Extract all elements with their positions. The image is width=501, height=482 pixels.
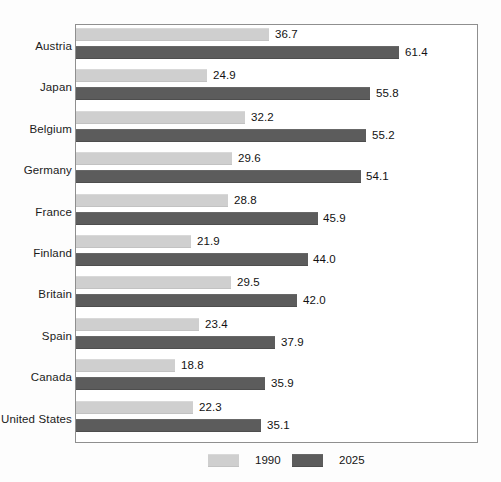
legend-item-1990: 1990 xyxy=(208,452,281,468)
bar-2025 xyxy=(76,294,297,307)
chart-row-japan: Japan 24.9 55.8 xyxy=(0,66,501,107)
bar-1990 xyxy=(76,318,199,331)
bar-1990 xyxy=(76,401,193,414)
bar-value-1990: 21.9 xyxy=(197,235,220,248)
bar-2025 xyxy=(76,377,265,390)
category-label: Belgium xyxy=(0,123,72,135)
chart-row-belgium: Belgium 32.2 55.2 xyxy=(0,108,501,149)
chart-row-austria: Austria 36.7 61.4 xyxy=(0,25,501,66)
bar-value-1990: 22.3 xyxy=(199,401,222,414)
bar-value-1990: 28.8 xyxy=(234,194,257,207)
bar-1990 xyxy=(76,276,231,289)
category-label: Spain xyxy=(0,330,72,342)
legend-swatch-1990-icon xyxy=(208,454,239,467)
bar-1990 xyxy=(76,359,175,372)
bar-value-2025: 42.0 xyxy=(303,294,326,307)
chart-row-france: France 28.8 45.9 xyxy=(0,191,501,232)
bar-2025 xyxy=(76,212,318,225)
bar-value-2025: 55.2 xyxy=(372,129,395,142)
bar-value-2025: 55.8 xyxy=(376,87,399,100)
chart-legend: 1990 2025 xyxy=(0,452,501,472)
category-label: Germany xyxy=(0,164,72,176)
bar-value-2025: 54.1 xyxy=(366,170,389,183)
category-label: United States xyxy=(0,413,72,425)
chart-row-spain: Spain 23.4 37.9 xyxy=(0,315,501,356)
category-label: Finland xyxy=(0,247,72,259)
chart-row-finland: Finland 21.9 44.0 xyxy=(0,232,501,273)
category-label: Japan xyxy=(0,81,72,93)
bar-2025 xyxy=(76,46,399,59)
legend-swatch-2025-icon xyxy=(292,454,323,467)
bar-value-2025: 35.9 xyxy=(271,377,294,390)
chart-row-canada: Canada 18.8 35.9 xyxy=(0,356,501,397)
bar-value-1990: 29.5 xyxy=(237,276,260,289)
bar-2025 xyxy=(76,419,261,432)
legend-label-1990: 1990 xyxy=(255,454,281,467)
category-label: Austria xyxy=(0,40,72,52)
bar-value-1990: 36.7 xyxy=(275,28,298,41)
chart-row-britain: Britain 29.5 42.0 xyxy=(0,273,501,314)
bar-2025 xyxy=(76,336,275,349)
chart-row-germany: Germany 29.6 54.1 xyxy=(0,149,501,190)
bar-value-2025: 45.9 xyxy=(323,212,346,225)
bar-2025 xyxy=(76,253,308,266)
bar-value-2025: 44.0 xyxy=(313,253,336,266)
bar-2025 xyxy=(76,170,361,183)
bar-chart: Austria 36.7 61.4 Japan 24.9 55.8 Belgiu… xyxy=(0,0,501,482)
category-label: Canada xyxy=(0,371,72,383)
bar-value-2025: 35.1 xyxy=(267,419,290,432)
bar-2025 xyxy=(76,129,366,142)
bar-2025 xyxy=(76,87,370,100)
bar-1990 xyxy=(76,28,269,41)
chart-row-united-states: United States 22.3 35.1 xyxy=(0,398,501,439)
legend-label-2025: 2025 xyxy=(339,454,365,467)
bar-value-2025: 37.9 xyxy=(281,336,304,349)
bar-1990 xyxy=(76,152,232,165)
bar-1990 xyxy=(76,194,228,207)
chart-rows-layer: Austria 36.7 61.4 Japan 24.9 55.8 Belgiu… xyxy=(0,0,501,482)
bar-value-1990: 24.9 xyxy=(213,69,236,82)
legend-item-2025: 2025 xyxy=(292,452,365,468)
bar-1990 xyxy=(76,111,245,124)
bar-value-1990: 18.8 xyxy=(181,359,204,372)
category-label: Britain xyxy=(0,288,72,300)
bar-1990 xyxy=(76,69,207,82)
bar-1990 xyxy=(76,235,191,248)
bar-value-2025: 61.4 xyxy=(405,46,428,59)
bar-value-1990: 23.4 xyxy=(205,318,228,331)
bar-value-1990: 32.2 xyxy=(251,111,274,124)
category-label: France xyxy=(0,206,72,218)
bar-value-1990: 29.6 xyxy=(238,152,261,165)
